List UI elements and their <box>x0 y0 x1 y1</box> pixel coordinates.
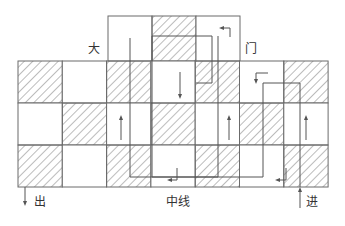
hatched-cell <box>195 61 239 103</box>
exit-label: 出 <box>34 196 46 208</box>
enter-label: 进 <box>306 196 318 208</box>
hatched-cell <box>152 16 196 61</box>
center-line-label: 中线 <box>166 196 190 208</box>
hatched-cell <box>284 61 328 103</box>
hatched-cell <box>18 145 62 187</box>
empty-cell <box>195 103 239 145</box>
route-diagram <box>0 0 345 226</box>
empty-cell <box>18 103 62 145</box>
gate-label-left: 大 <box>88 43 100 55</box>
hatched-cell <box>107 145 151 187</box>
empty-cell <box>151 145 195 187</box>
hatched-cell <box>18 61 62 103</box>
empty-cell <box>107 103 151 145</box>
hatched-cell <box>240 103 284 145</box>
empty-cell <box>240 61 284 103</box>
grid-cells <box>18 16 328 187</box>
empty-cell <box>151 61 195 103</box>
hatched-cell <box>62 103 106 145</box>
hatched-cell <box>284 145 328 187</box>
hatched-cell <box>195 145 239 187</box>
arrowhead-icon <box>298 187 302 192</box>
empty-cell <box>62 61 106 103</box>
hatched-cell <box>107 61 151 103</box>
hatched-cell <box>151 103 195 145</box>
empty-cell <box>62 145 106 187</box>
gate-label-right: 门 <box>245 43 257 55</box>
